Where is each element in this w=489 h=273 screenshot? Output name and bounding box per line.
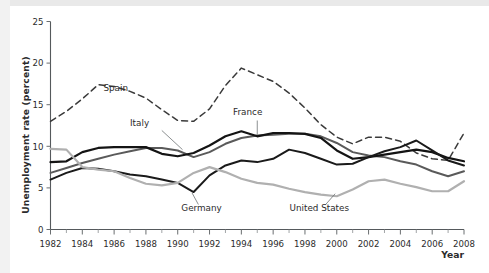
x-tick-label: 1986 (103, 239, 125, 249)
x-axis-title: Year (440, 249, 464, 260)
x-tick-label: 1996 (262, 239, 284, 249)
series-line-italy (51, 134, 465, 176)
x-tick-label: 2004 (389, 239, 411, 249)
x-tick-label: 2002 (358, 239, 380, 249)
figure-container: 0510152025 19821984198619881990199219941… (0, 0, 489, 273)
y-axis-ticks: 0510152025 (33, 17, 51, 235)
unemployment-rate-line-chart: 0510152025 19821984198619881990199219941… (0, 0, 489, 273)
y-tick-label: 10 (33, 142, 44, 152)
y-tick-label: 20 (33, 58, 44, 68)
x-tick-label: 2006 (421, 239, 443, 249)
y-tick-label: 5 (38, 183, 43, 193)
y-axis-title: Unemployment rate (percent) (20, 56, 31, 213)
x-axis-ticks: 1982198419861988199019921994199619982000… (40, 230, 475, 249)
x-tick-label: 1982 (40, 239, 62, 249)
x-tick-label: 1994 (230, 239, 252, 249)
x-tick-label: 2000 (326, 239, 348, 249)
x-tick-label: 1992 (199, 239, 221, 249)
page-left-band (0, 0, 10, 273)
italy-label: Italy (130, 118, 149, 128)
italy-label-leader-line (162, 130, 183, 149)
x-tick-label: 2008 (453, 239, 475, 249)
x-tick-label: 1998 (294, 239, 316, 249)
france-label: France (233, 107, 262, 117)
x-tick-label: 1990 (167, 239, 189, 249)
y-tick-label: 0 (38, 225, 43, 235)
page-top-band (0, 0, 489, 6)
y-tick-label: 25 (33, 17, 44, 27)
germany-label: Germany (181, 203, 221, 213)
spain-label: Spain (103, 83, 128, 93)
x-tick-label: 1988 (135, 239, 157, 249)
x-tick-label: 1984 (71, 239, 93, 249)
y-tick-label: 15 (33, 100, 44, 110)
us-label: United States (289, 203, 349, 213)
